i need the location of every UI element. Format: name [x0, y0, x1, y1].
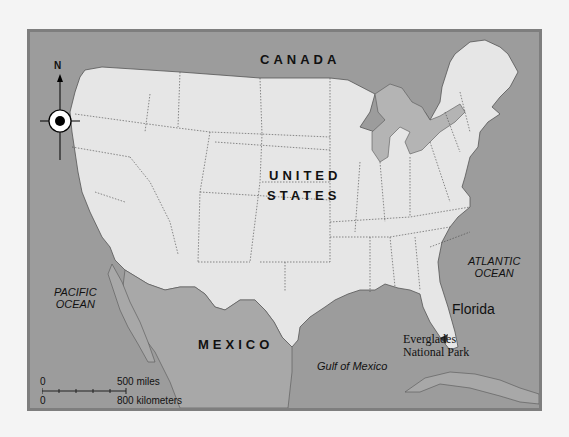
- compass-rose: N: [40, 60, 80, 160]
- scale-bar: 0 500 miles 0 800 kilometers: [40, 376, 160, 406]
- label-pacific-ocean: PACIFIC OCEAN: [54, 286, 97, 310]
- label-florida: Florida: [452, 301, 495, 317]
- scale-km-zero: 0: [40, 395, 46, 406]
- label-canada: CANADA: [260, 52, 340, 67]
- cuba: [405, 372, 539, 404]
- label-atlantic-ocean: ATLANTIC OCEAN: [468, 255, 520, 279]
- map-frame: N CANADA UNITED STATES MEXICO PACIFIC OC…: [27, 29, 542, 411]
- label-states: STATES: [267, 188, 340, 203]
- scale-km-label: 800 kilometers: [117, 395, 182, 406]
- compass-rose-icon: [40, 70, 80, 160]
- label-united: UNITED: [269, 168, 341, 183]
- scale-miles-zero: 0: [40, 376, 46, 387]
- label-mexico: MEXICO: [198, 337, 273, 352]
- label-gulf-of-mexico: Gulf of Mexico: [317, 360, 387, 372]
- scale-miles-label: 500 miles: [117, 376, 160, 387]
- label-everglades: Everglades National Park: [403, 333, 469, 359]
